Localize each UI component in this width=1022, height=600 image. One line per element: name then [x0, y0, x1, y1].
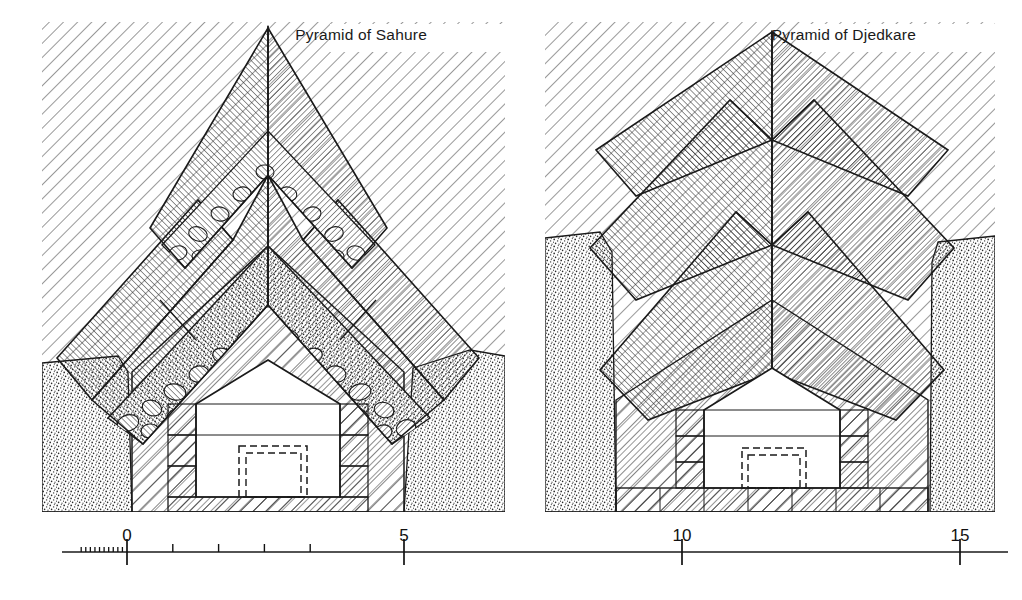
- diagram-canvas: Pyramid of Sahure: [0, 0, 1022, 600]
- figure-sheet: Pyramid of Sahure: [0, 0, 1022, 600]
- panel-djedkare: [545, 22, 996, 512]
- chamber-floor-course-djedkare: [616, 488, 928, 512]
- scale-label: 15: [951, 526, 970, 545]
- scale-label: 0: [122, 526, 131, 545]
- panel-title-djedkare: Pyramid of Djedkare: [772, 26, 916, 43]
- panel-sahure: [42, 22, 508, 512]
- scale-label: 5: [399, 526, 408, 545]
- scale-label: 10: [673, 526, 692, 545]
- chamber-floor-sahure: [168, 497, 368, 512]
- panel-title-sahure: Pyramid of Sahure: [295, 26, 427, 43]
